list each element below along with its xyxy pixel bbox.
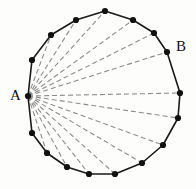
vertex-dot-b [164, 49, 170, 55]
vertex-dot-v1 [29, 57, 35, 63]
diagonal-line [28, 52, 167, 96]
vertex-dot-v12 [112, 171, 118, 177]
vertex-dot-a [25, 93, 31, 99]
vertex-dot-v2 [48, 32, 54, 38]
vertex-dot-v8 [177, 90, 183, 96]
diagonal-line [28, 20, 133, 96]
diagonal-line [28, 96, 89, 174]
vertex-dot-v5 [130, 17, 136, 23]
vertex-dot-v13 [86, 171, 92, 177]
diagonal-line [28, 33, 154, 96]
vertex-dot-v9 [175, 115, 181, 121]
diagonal-line [28, 96, 178, 118]
geometry-figure: A B [0, 0, 196, 189]
vertex-dot-v3 [73, 17, 79, 23]
diagonal-line [28, 93, 180, 96]
vertex-label-a: A [10, 88, 21, 103]
vertex-dot-v15 [44, 150, 50, 156]
vertex-label-b: B [176, 39, 186, 54]
vertex-dot-v4 [102, 8, 108, 14]
polygon-diagonals-svg [0, 0, 196, 189]
vertex-dot-v14 [64, 164, 70, 170]
vertex-dot-v10 [160, 142, 166, 148]
vertex-dot-v6 [151, 30, 157, 36]
diagonal-line [28, 96, 163, 145]
polygon-vertices-group [25, 8, 183, 177]
vertex-dot-v11 [139, 160, 145, 166]
vertex-dot-v16 [29, 130, 35, 136]
